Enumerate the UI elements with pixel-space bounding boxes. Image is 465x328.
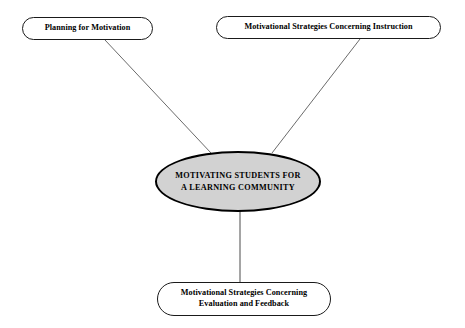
node-motivating-students-center-label: MOTIVATING STUDENTS FOR A LEARNING COMMU…: [175, 170, 300, 194]
node-strategies-instruction-label: Motivational Strategies Concerning Instr…: [244, 22, 412, 33]
connector-planning-to-center: [105, 40, 211, 153]
node-motivating-students-center[interactable]: MOTIVATING STUDENTS FOR A LEARNING COMMU…: [155, 151, 321, 212]
node-strategies-instruction[interactable]: Motivational Strategies Concerning Instr…: [216, 16, 441, 39]
connector-instruction-to-center: [272, 39, 360, 153]
node-planning-for-motivation-label: Planning for Motivation: [45, 23, 131, 34]
diagram-canvas: Planning for Motivation Motivational Str…: [0, 0, 465, 328]
node-strategies-evaluation-label: Motivational Strategies Concerning Evalu…: [181, 288, 307, 310]
node-strategies-evaluation[interactable]: Motivational Strategies Concerning Evalu…: [157, 282, 331, 316]
node-planning-for-motivation[interactable]: Planning for Motivation: [22, 17, 153, 40]
